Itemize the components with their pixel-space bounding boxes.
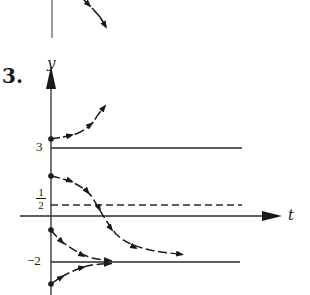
- previous-figure-fragment: [52, 0, 106, 38]
- solution-diagram: [0, 0, 310, 295]
- tick-label-half: 1 2: [36, 187, 46, 210]
- t-axis-arrow-icon: [262, 211, 282, 221]
- solution-curve-below-0: [48, 227, 112, 261]
- tick-half-denominator: 2: [38, 199, 44, 211]
- t-axis: [20, 211, 282, 221]
- tick-half-numerator: 1: [38, 186, 44, 198]
- tick-label-3: 3: [36, 139, 43, 155]
- solution-curve-above-3: [48, 106, 105, 142]
- y-axis: [46, 66, 56, 295]
- solution-curve-below-neg2: [48, 264, 112, 287]
- tick-label-neg2: −2: [27, 253, 41, 269]
- solution-curve-mid: [48, 173, 182, 254]
- t-axis-label: t: [288, 206, 294, 224]
- y-axis-label: y: [47, 54, 55, 72]
- problem-number: 3.: [2, 64, 23, 88]
